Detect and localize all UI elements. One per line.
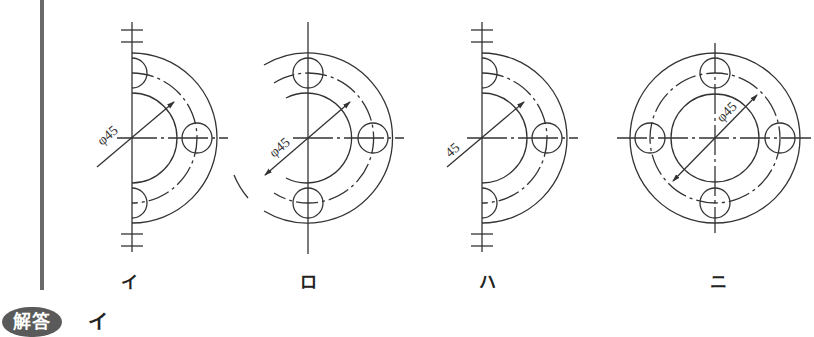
figure-label-ha: ハ: [479, 268, 496, 293]
dimension-label-ro: φ45: [266, 135, 293, 161]
answer-value: イ: [88, 306, 108, 335]
figure-ni: φ45: [617, 43, 813, 233]
answer-badge: 解答: [2, 307, 62, 337]
dimension-label-i: φ45: [94, 123, 121, 149]
figure-ha: 45: [442, 22, 578, 252]
figure-label-ni: ニ: [710, 268, 727, 293]
figure-label-ro: ロ: [300, 268, 317, 293]
figure-i: φ45: [94, 22, 228, 252]
dimension-label-ni: φ45: [714, 99, 740, 125]
dimension-label-ha: 45: [442, 140, 462, 160]
figure-ro: φ45: [233, 22, 404, 254]
figure-label-i: イ: [121, 268, 138, 293]
